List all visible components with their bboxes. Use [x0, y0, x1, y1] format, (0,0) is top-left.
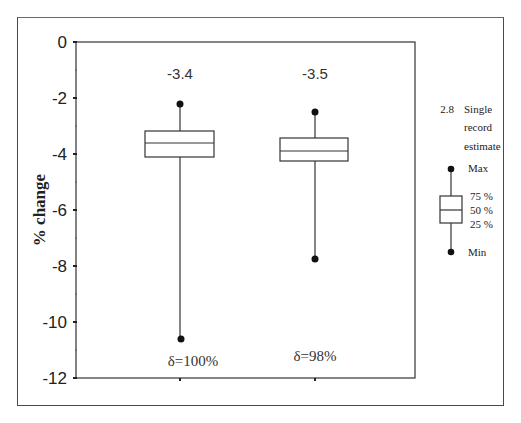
y-tick-label: -2 [52, 89, 67, 108]
y-tick-label: -6 [52, 201, 67, 220]
box-plot-chart: 0 -2 -4 -6 -8 -10 -12 % change -3.4 δ=10… [0, 0, 521, 423]
y-tick-label: 0 [58, 33, 67, 52]
legend-header-line: estimate [464, 140, 501, 152]
legend-max-point [448, 166, 455, 173]
single-record-estimate-label: -3.5 [302, 65, 328, 82]
y-tick-label: -4 [52, 145, 67, 164]
plot-area [76, 42, 415, 378]
min-point [178, 336, 185, 343]
y-tick-label: -12 [42, 369, 67, 388]
max-point [312, 109, 319, 116]
min-point [312, 256, 319, 263]
legend-header-line: Single [464, 103, 492, 115]
delta-label: δ=100% [168, 353, 219, 369]
legend: 2.8 Single record estimate Max 75 % 50 %… [440, 103, 501, 258]
legend-header-line: record [464, 121, 493, 133]
legend-header-value: 2.8 [440, 103, 454, 115]
legend-label-q3: 75 % [470, 190, 493, 202]
legend-label-min: Min [468, 246, 487, 258]
delta-label: δ=98% [293, 348, 336, 364]
box-group-2: -3.5 δ=98% [280, 65, 348, 364]
y-tick-label: -8 [52, 257, 67, 276]
single-record-estimate-label: -3.4 [167, 65, 193, 82]
box-group-1: -3.4 δ=100% [145, 65, 218, 369]
legend-label-median: 50 % [470, 204, 493, 216]
y-axis-label: % change [30, 173, 49, 246]
legend-min-point [448, 249, 455, 256]
iqr-box [280, 138, 348, 161]
iqr-box [145, 131, 214, 157]
legend-label-max: Max [468, 162, 489, 174]
max-point [177, 101, 184, 108]
y-tick-label: -10 [42, 313, 67, 332]
legend-label-q1: 25 % [470, 218, 493, 230]
